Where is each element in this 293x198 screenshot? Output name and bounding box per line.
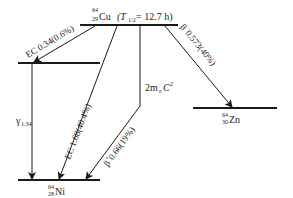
svg-text:1.34: 1.34 [21, 121, 32, 127]
ni-label: 64 28 Ni [48, 184, 65, 197]
beta-minus-label: β − 0.573(40%) [178, 21, 218, 67]
svg-text:= 12.7 h): = 12.7 h) [136, 11, 172, 23]
gamma-label: γ 1.34 [15, 115, 32, 127]
ec-low-label: EC 0.34(0.6%) [24, 23, 76, 60]
pair-label: 2m e C 2 [145, 81, 173, 94]
svg-text:28: 28 [48, 191, 54, 197]
svg-text:Cu: Cu [99, 11, 111, 22]
svg-text:1/2: 1/2 [128, 17, 136, 23]
svg-text:Ni: Ni [55, 186, 65, 197]
cu-label: 64 29 Cu (T 1/2 = 12.7 h) [92, 7, 172, 23]
beta-plus-arrow [86, 106, 140, 179]
svg-text:2: 2 [170, 81, 173, 87]
svg-text:29: 29 [92, 16, 98, 22]
beta-plus-label: β + 0.66(19%) [101, 124, 137, 168]
zn-label: 64 30 Zn [222, 112, 240, 125]
svg-text:(T: (T [117, 11, 127, 23]
svg-text:0.573(40%): 0.573(40%) [183, 28, 218, 68]
svg-text:64: 64 [92, 7, 98, 13]
svg-text:C: C [163, 82, 170, 93]
svg-text:Zn: Zn [229, 114, 240, 125]
ec-high-label: EC 1.68(40.4%) [63, 102, 93, 160]
svg-text:64: 64 [48, 184, 54, 190]
svg-text:30: 30 [222, 119, 228, 125]
svg-text:e: e [159, 88, 162, 94]
decay-scheme-diagram: 64 29 Cu (T 1/2 = 12.7 h) 64 30 Zn 64 28… [0, 0, 293, 198]
svg-text:2m: 2m [145, 82, 158, 93]
svg-text:64: 64 [222, 112, 228, 118]
